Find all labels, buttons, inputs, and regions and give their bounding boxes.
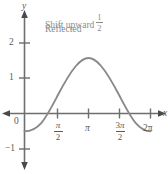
annotation-fraction-one-half: 12 (96, 13, 102, 32)
x-tick-pi-over-2-denominator: 2 (50, 133, 66, 142)
fraction-denominator: 2 (96, 24, 102, 33)
y-axis-arrow-down (21, 162, 28, 170)
cosine-curve (25, 58, 151, 131)
graph-figure: Shift upward12 Reflected y x 0 2 1 −1 π … (0, 0, 168, 174)
y-tick-label-neg1: −1 (5, 143, 15, 153)
y-axis-arrow-up (21, 10, 28, 18)
origin-label: 0 (14, 116, 19, 126)
x-tick-3pi-over-2-pi: π (120, 120, 125, 130)
x-tick-3pi-over-2-numerator: 3π (110, 121, 130, 130)
fraction-numerator: 1 (96, 13, 102, 22)
x-tick-2pi-pi: π (148, 123, 153, 133)
x-tick-3pi-over-2-denominator: 2 (110, 133, 130, 142)
x-tick-label-2pi: 2π (143, 123, 153, 133)
x-tick-label-3pi-over-2: 3π 2 (110, 121, 130, 142)
y-axis-label: y (22, 1, 26, 11)
x-tick-label-pi-over-2: π 2 (50, 121, 66, 142)
x-tick-pi-over-2-numerator: π (50, 121, 66, 130)
x-axis-label: x (163, 108, 167, 118)
y-tick-label-1: 1 (9, 72, 14, 82)
y-tick-label-2: 2 (9, 37, 14, 47)
annotation-reflected: Reflected (45, 24, 81, 35)
x-tick-label-pi: π (85, 123, 90, 133)
x-axis-arrow-left (2, 110, 10, 117)
